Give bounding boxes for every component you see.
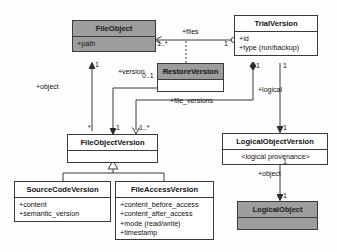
edge-generalization-branch-left xyxy=(63,173,113,181)
class-file-object-attributes: +path xyxy=(73,37,155,51)
multiplicity-lo-top: 1 xyxy=(283,192,287,200)
class-file-object-name: FileObject xyxy=(73,21,155,37)
class-logical-object[interactable]: LogicalObject xyxy=(237,201,318,230)
label-version: +version xyxy=(118,68,145,76)
class-file-object-version[interactable]: FileObjectVersion xyxy=(67,134,158,163)
edge-object-left-arrowhead xyxy=(89,63,95,69)
attribute: +semantic_version xyxy=(19,209,107,218)
class-file-object-version-name: FileObjectVersion xyxy=(68,135,157,151)
attribute: +path xyxy=(77,39,152,48)
edge-generalization-branch-right xyxy=(113,173,164,181)
multiplicity-files-target: 1..* xyxy=(157,40,168,48)
class-source-code-version-name: SourceCodeVersion xyxy=(15,182,110,198)
multiplicity-object-fo: 1 xyxy=(95,61,99,69)
attribute: +timestamp xyxy=(120,228,210,237)
class-file-object-version-attributes xyxy=(68,151,157,162)
class-logical-object-attributes xyxy=(238,218,317,229)
class-source-code-version-attributes: +content +semantic_version xyxy=(15,198,110,221)
multiplicity-file-versions-tv: 1 xyxy=(256,62,260,70)
multiplicity-logical-tv: 1 xyxy=(283,62,287,70)
attribute: <logical provenance> xyxy=(227,152,324,161)
class-file-object[interactable]: FileObject +path xyxy=(72,20,156,52)
class-file-access-version-attributes: +content_before_access +content_after_ac… xyxy=(116,198,213,240)
label-object-left: +object xyxy=(36,83,59,91)
edge-logical-arrowhead xyxy=(277,127,283,133)
multiplicity-version-restore: 0..1 xyxy=(142,72,154,80)
class-restore-version-name: RestoreVersion xyxy=(158,64,223,80)
label-logical: +logical xyxy=(258,86,282,94)
class-logical-object-version-attributes: <logical provenance> xyxy=(223,150,327,164)
attribute: +type (run/backup) xyxy=(239,43,314,52)
class-trial-version-attributes: +id +type (run/backup) xyxy=(235,32,317,55)
label-files: +files xyxy=(182,28,199,36)
uml-class-diagram-canvas: FileObject +path TrialVersion +id +type … xyxy=(0,0,337,252)
attribute: +id xyxy=(239,34,314,43)
attribute: +mode (read/write) xyxy=(120,219,210,228)
class-restore-version-attributes xyxy=(158,80,223,91)
multiplicity-files-source: 1 xyxy=(224,40,228,48)
multiplicity-file-versions-fov: 1..* xyxy=(139,124,150,132)
class-logical-object-version[interactable]: LogicalObjectVersion <logical provenance… xyxy=(222,133,328,165)
multiplicity-version-fov: 1 xyxy=(116,124,120,132)
class-file-access-version-name: FileAccessVersion xyxy=(116,182,213,198)
class-restore-version[interactable]: RestoreVersion xyxy=(157,63,224,92)
class-trial-version[interactable]: TrialVersion +id +type (run/backup) xyxy=(234,15,318,56)
attribute: +content_after_access xyxy=(120,209,210,218)
label-object-right: +object xyxy=(258,170,281,178)
class-logical-object-name: LogicalObject xyxy=(238,202,317,218)
multiplicity-logical-lov: 1 xyxy=(283,124,287,132)
class-file-access-version[interactable]: FileAccessVersion +content_before_access… xyxy=(115,181,214,240)
label-file-versions: +file_versions xyxy=(170,97,213,105)
attribute: +content_before_access xyxy=(120,200,210,209)
class-trial-version-name: TrialVersion xyxy=(235,16,317,32)
class-logical-object-version-name: LogicalObjectVersion xyxy=(223,134,327,150)
multiplicity-lov-bottom: 1 xyxy=(283,158,287,166)
edge-version xyxy=(113,88,187,130)
class-source-code-version[interactable]: SourceCodeVersion +content +semantic_ver… xyxy=(14,181,111,222)
multiplicity-object-fov: * xyxy=(88,124,91,132)
attribute: +content xyxy=(19,200,107,209)
edge-object-right-arrowhead xyxy=(277,195,283,201)
